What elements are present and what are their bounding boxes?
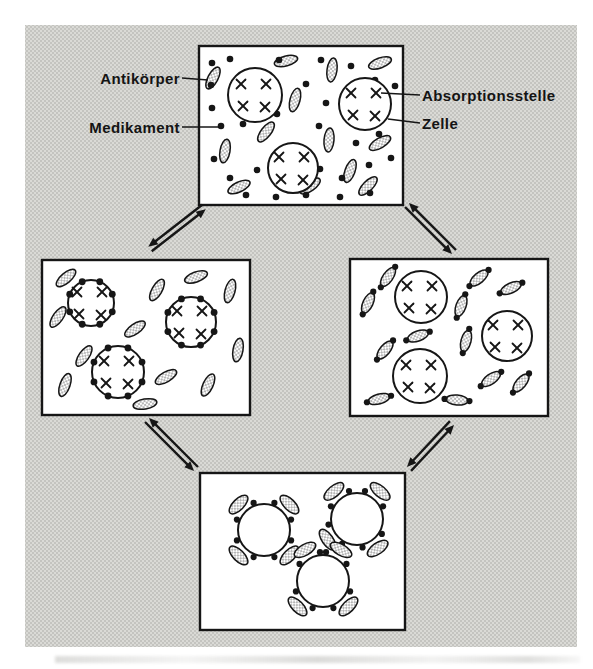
figure-page: { "figure": { "ink": "#161616", "panel_f… bbox=[0, 0, 593, 669]
label-antikoerper: Antikörper bbox=[86, 70, 180, 87]
panel-agglutination bbox=[200, 473, 405, 630]
label-absorptionsstelle: Absorptionsstelle bbox=[422, 87, 556, 104]
panel-drug-antibody-complexes bbox=[350, 259, 548, 416]
label-zelle: Zelle bbox=[422, 115, 458, 132]
label-medikament: Medikament bbox=[80, 119, 180, 136]
panel-initial-mixture bbox=[199, 46, 403, 205]
panel-drug-bound-to-cells bbox=[42, 260, 250, 415]
scan-artifact bbox=[55, 656, 580, 663]
